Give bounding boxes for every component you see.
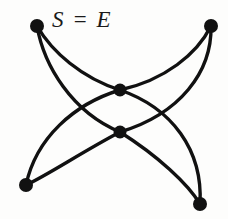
vertex-bottom-right: [193, 197, 207, 211]
vertex-top-left: [30, 19, 44, 33]
edge-top-left-to-center-upper: [37, 26, 120, 90]
figure-container: S = E: [0, 0, 228, 219]
vertex-center-upper: [114, 84, 127, 97]
graph-diagram: [0, 0, 228, 219]
equation-label: S = E: [52, 7, 112, 33]
vertex-group: [19, 19, 218, 211]
edge-center-upper-to-bottom-left: [26, 90, 120, 185]
edge-group: [26, 26, 211, 204]
edge-top-right-to-center-upper: [120, 26, 211, 90]
vertex-bottom-left: [19, 178, 33, 192]
vertex-center-lower: [114, 126, 127, 139]
vertex-top-right: [204, 19, 218, 33]
edge-center-lower-to-bottom-left: [26, 132, 120, 185]
